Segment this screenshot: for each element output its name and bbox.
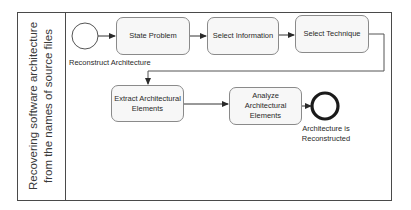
task-state-problem[interactable]: State Problem xyxy=(116,17,190,55)
end-event-label: Architecture is Reconstructed xyxy=(300,124,352,144)
end-event-icon[interactable] xyxy=(312,93,338,119)
start-event-label: Reconstruct Architecture xyxy=(69,58,151,68)
task-extract-architectural-elements[interactable]: Extract Architectural Elements xyxy=(111,85,184,122)
task-select-information[interactable]: Select Information xyxy=(207,17,279,55)
task-select-technique[interactable]: Select Technique xyxy=(295,15,369,53)
start-event-icon[interactable] xyxy=(72,23,98,49)
task-analyze-architectural-elements[interactable]: Analyze Architectural Elements xyxy=(229,87,302,125)
